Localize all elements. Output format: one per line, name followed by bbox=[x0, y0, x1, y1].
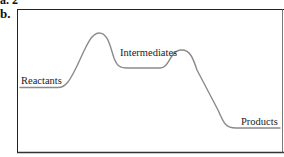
energy-diagram: Reactants Intermediates Products bbox=[0, 0, 284, 157]
reactants-label: Reactants bbox=[21, 75, 62, 86]
products-label: Products bbox=[241, 116, 278, 127]
intermediates-label: Intermediates bbox=[120, 47, 177, 58]
